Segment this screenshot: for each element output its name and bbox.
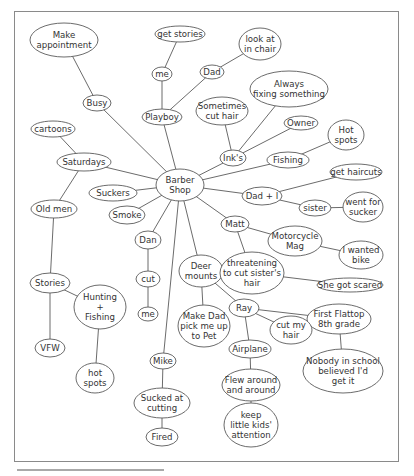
node-dad: Dad	[200, 65, 224, 79]
node-label: Old men	[36, 204, 72, 214]
node-label: hot	[88, 368, 103, 378]
node-dad-i: Dad + I	[242, 187, 282, 205]
node-label: Ray	[236, 303, 252, 313]
node-label: Airplane	[232, 344, 268, 354]
node-me-top: me	[152, 67, 172, 81]
node-label: Make	[53, 30, 76, 40]
node-label: cutting	[147, 403, 177, 413]
node-dan: Dan	[135, 231, 161, 249]
diagram-frame	[15, 12, 399, 462]
node-sometimes-cut: Sometimescut hair	[196, 97, 248, 125]
node-label: me	[155, 69, 169, 79]
node-label: believed I'd	[318, 366, 368, 376]
node-cartoons: cartoons	[31, 121, 75, 137]
node-label: me	[141, 309, 155, 319]
node-me-mid: me	[138, 307, 158, 321]
node-saturdays: Saturdays	[57, 153, 111, 171]
node-label: Fired	[152, 432, 173, 442]
node-old-men: Old men	[31, 200, 77, 218]
node-inks: Ink's	[220, 150, 246, 166]
node-label: little kids'	[230, 420, 272, 430]
node-label: Sucked at	[141, 393, 184, 403]
node-label: cut my	[276, 320, 306, 330]
node-label: appointment	[36, 40, 92, 50]
node-label: 8th grade	[318, 319, 360, 329]
node-cut-my-hair: cut myhair	[270, 316, 312, 344]
node-label: Dad + I	[246, 191, 279, 201]
node-smoke: Smoke	[109, 206, 145, 224]
node-matt: Matt	[221, 216, 249, 232]
node-barber: BarberShop	[156, 169, 204, 201]
node-label: Sometimes	[198, 101, 247, 111]
node-always-fixing: Alwaysfixing something	[250, 71, 328, 107]
node-suckers: Suckers	[89, 185, 137, 201]
node-label: Playboy	[145, 112, 179, 122]
node-label: keep	[241, 410, 262, 420]
node-label: bike	[352, 255, 370, 265]
node-label: look at	[245, 34, 275, 44]
node-fired: Fired	[146, 428, 178, 446]
node-label: cut hair	[206, 111, 239, 121]
node-label: Fishing	[273, 155, 303, 165]
node-scared: She got scared	[317, 278, 383, 292]
node-label: Make Dad	[183, 311, 226, 321]
node-went-sucker: went forsucker	[343, 192, 383, 222]
node-label: Motorcycle	[272, 231, 319, 241]
node-sister: sister	[299, 200, 331, 216]
node-label: Hunting	[83, 292, 117, 302]
node-hot-spots-l: hotspots	[76, 363, 114, 393]
node-label: mounts	[185, 271, 218, 281]
node-label: attention	[231, 430, 270, 440]
node-look-chair: look atin chair	[239, 28, 281, 60]
node-label: cut	[141, 274, 155, 284]
node-label: went for	[345, 197, 381, 207]
node-label: She got scared	[318, 280, 382, 290]
node-label: threatening	[227, 258, 277, 268]
node-hot-spots-r: Hotspots	[328, 120, 364, 150]
node-get-stories: get stories	[155, 26, 205, 42]
node-sucked: Sucked atcutting	[134, 388, 190, 418]
node-label: VFW	[40, 343, 60, 353]
node-owner: Owner	[284, 116, 318, 130]
node-label: Matt	[225, 219, 245, 229]
node-playboy: Playboy	[142, 109, 182, 125]
node-label: Nobody in school	[306, 356, 380, 366]
node-busy: Busy	[83, 95, 111, 111]
node-get-haircuts: get haircuts	[330, 164, 382, 180]
node-motorcycle: MotorcycleMag	[268, 226, 322, 256]
mind-map-diagram: BarberShopMakeappointmentBusyget stories…	[0, 0, 414, 476]
node-label: sucker	[349, 207, 378, 217]
node-label: hair	[244, 278, 261, 288]
node-label: Mike	[153, 356, 173, 366]
node-label: to cut sister's	[223, 268, 282, 278]
node-label: Dan	[139, 235, 156, 245]
node-label: Flew around	[225, 375, 278, 385]
node-label: Hot	[338, 125, 354, 135]
node-flew: Flew aroundand around	[222, 369, 280, 401]
node-label: Barber	[166, 175, 195, 185]
node-airplane: Airplane	[229, 340, 271, 358]
node-label: spots	[334, 135, 358, 145]
node-label: cartoons	[34, 124, 72, 134]
node-threatening: threateningto cut sister'shair	[220, 252, 284, 294]
node-label: Ink's	[223, 153, 243, 163]
node-hunting: Hunting+Fishing	[74, 285, 126, 329]
node-stories: Stories	[30, 273, 70, 293]
node-first-flattop: First Flattop8th grade	[307, 304, 371, 334]
node-label: Shop	[169, 185, 191, 195]
node-cut: cut	[136, 271, 160, 287]
node-label: get stories	[157, 29, 203, 39]
node-nobody: Nobody in schoolbelieved I'dget it	[303, 349, 383, 393]
node-label: Owner	[287, 118, 316, 128]
node-label: hair	[283, 330, 300, 340]
node-label: spots	[83, 378, 107, 388]
node-fishing: Fishing	[267, 152, 309, 168]
node-label: Smoke	[112, 210, 141, 220]
node-keep-kids: keeplittle kids'attention	[224, 403, 278, 447]
node-label: to Pet	[192, 331, 218, 341]
node-label: Mag	[286, 241, 304, 251]
node-label: Always	[274, 79, 305, 89]
node-label: First Flattop	[314, 309, 365, 319]
node-label: get haircuts	[330, 167, 382, 177]
node-label: I wanted	[342, 245, 379, 255]
